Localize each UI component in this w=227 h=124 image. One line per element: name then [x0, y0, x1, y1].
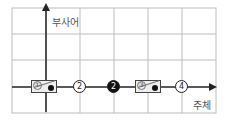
node-box-3: ③	[135, 80, 161, 93]
y-axis-label: 부사어	[52, 14, 79, 29]
node-filled-circle-2: 2	[107, 80, 120, 93]
node-box-1: ①	[31, 80, 57, 93]
x-axis-label: 주체	[193, 97, 211, 112]
node-number: ③	[137, 81, 146, 90]
grid	[12, 8, 216, 113]
node-circle-2: 2	[73, 80, 86, 93]
black-dot-icon	[152, 85, 158, 91]
y-axis	[42, 3, 50, 112]
node-circle-4: 4	[175, 80, 188, 93]
node-number: ①	[33, 81, 42, 90]
black-dot-icon	[48, 85, 54, 91]
